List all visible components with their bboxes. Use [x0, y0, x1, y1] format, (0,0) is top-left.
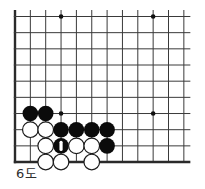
black-stone [99, 122, 115, 138]
black-stone [99, 138, 115, 154]
star-point [59, 14, 64, 19]
white-stone [53, 154, 69, 170]
black-stone [38, 106, 54, 122]
white-stone [38, 122, 54, 138]
white-stone [84, 138, 100, 154]
star-point [151, 14, 156, 19]
diagram-caption: 6도 [16, 166, 37, 182]
star-point [59, 111, 64, 116]
white-stone [23, 122, 39, 138]
white-stone [38, 138, 54, 154]
black-stone [53, 122, 69, 138]
white-stone [84, 154, 100, 170]
white-stone [69, 138, 85, 154]
white-stone [38, 154, 54, 170]
go-diagram: 6도 [0, 0, 205, 189]
move-1-marker [59, 141, 62, 151]
go-board [0, 0, 205, 189]
star-point [151, 111, 156, 116]
black-stone [84, 122, 100, 138]
black-stone [23, 106, 39, 122]
black-stone [69, 122, 85, 138]
